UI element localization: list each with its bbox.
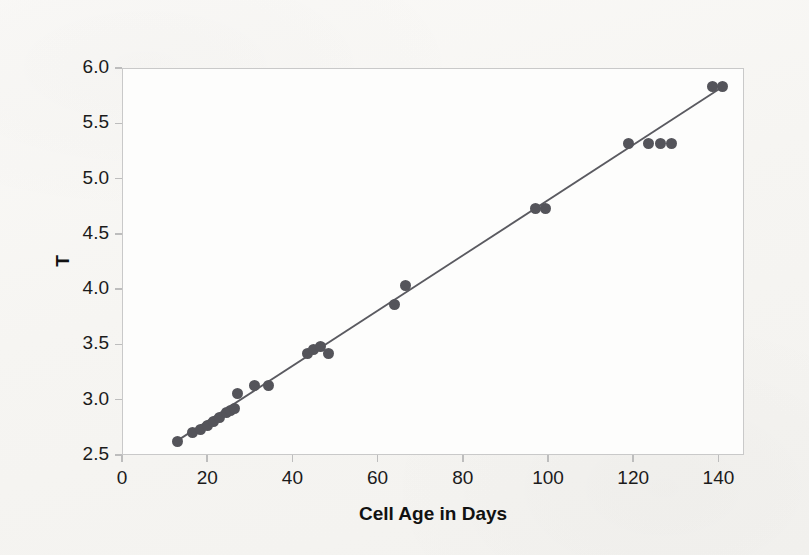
x-tick-mark: [206, 455, 208, 462]
x-tick-mark: [462, 455, 464, 462]
y-tick-label: 4.5: [83, 222, 109, 244]
data-point: [232, 388, 243, 399]
y-tick-label: 6.0: [83, 56, 109, 78]
x-tick-label: 20: [197, 467, 218, 489]
y-tick-mark: [115, 67, 122, 69]
y-tick-label: 3.0: [83, 388, 109, 410]
x-tick-label: 120: [617, 467, 649, 489]
scatter-plot-figure: 2.53.03.54.04.55.05.56.0 020406080100120…: [0, 0, 809, 555]
data-point: [707, 81, 718, 92]
y-tick-label: 4.0: [83, 277, 109, 299]
data-point: [249, 380, 260, 391]
x-tick-label: 0: [117, 467, 128, 489]
y-tick-mark: [115, 123, 122, 125]
y-tick-mark: [115, 233, 122, 235]
x-tick-mark: [292, 455, 294, 462]
y-tick-label: 3.5: [83, 332, 109, 354]
y-axis-label: T: [52, 246, 74, 276]
y-tick-label: 5.5: [83, 111, 109, 133]
data-point: [530, 203, 541, 214]
data-point: [666, 138, 677, 149]
y-tick-label: 2.5: [83, 443, 109, 465]
x-tick-label: 100: [532, 467, 564, 489]
y-tick-label: 5.0: [83, 167, 109, 189]
y-tick-mark: [115, 344, 122, 346]
plot-area-frame: [122, 68, 744, 455]
x-tick-mark: [121, 455, 123, 462]
data-point: [323, 348, 334, 359]
y-tick-mark: [115, 178, 122, 180]
data-point: [643, 138, 654, 149]
x-tick-label: 80: [452, 467, 473, 489]
y-tick-mark: [115, 288, 122, 290]
x-tick-label: 40: [282, 467, 303, 489]
x-tick-mark: [718, 455, 720, 462]
x-tick-mark: [632, 455, 634, 462]
x-tick-mark: [377, 455, 379, 462]
x-tick-label: 140: [703, 467, 735, 489]
y-tick-mark: [115, 399, 122, 401]
x-tick-mark: [547, 455, 549, 462]
x-tick-label: 60: [367, 467, 388, 489]
x-axis-label: Cell Age in Days: [122, 503, 744, 525]
